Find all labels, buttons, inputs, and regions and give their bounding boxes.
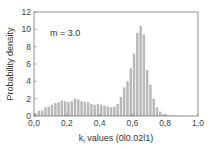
histogram-bar: [130, 68, 132, 116]
histogram-bar: [77, 100, 79, 116]
histogram-bar: [120, 97, 122, 116]
x-tick-label: 0,6: [126, 118, 138, 128]
histogram-bar: [146, 70, 148, 116]
histogram-bar: [126, 81, 128, 116]
histogram-bar: [103, 106, 105, 116]
histogram-bar: [84, 102, 86, 116]
y-tick-label: 2: [26, 94, 31, 104]
histogram-bar: [97, 104, 99, 116]
histogram-bar: [139, 26, 141, 116]
histogram-bar: [116, 104, 118, 116]
histogram-bars: [34, 26, 197, 116]
x-tick-label: 1,0: [192, 118, 204, 128]
x-tick-label: 0,0: [28, 118, 40, 128]
x-tick-label: 0,4: [94, 118, 106, 128]
histogram-bar: [48, 106, 50, 116]
histogram-bar: [41, 111, 43, 116]
x-tick-label: 0,2: [61, 118, 73, 128]
histogram-bar: [136, 33, 138, 116]
y-tick-label: 8: [26, 42, 31, 52]
histogram-bar: [149, 85, 151, 116]
histogram-bar: [159, 112, 161, 116]
y-axis-label: Probability density: [5, 27, 15, 101]
histogram-bar: [143, 35, 145, 116]
histogram-bar: [61, 100, 63, 116]
x-tick-label: 0,8: [159, 118, 171, 128]
x-axis-label: kt values (0l0.02l1): [79, 133, 154, 144]
histogram-bar: [100, 105, 102, 116]
histogram-bar: [123, 87, 125, 116]
y-tick-label: 10: [22, 24, 32, 34]
histogram-bar: [156, 107, 158, 116]
histogram-bar: [70, 101, 72, 116]
histogram-bar: [67, 102, 69, 116]
histogram-bar: [54, 103, 56, 116]
histogram-bar: [113, 106, 115, 116]
y-tick-label: 6: [26, 59, 31, 69]
histogram-bar: [107, 106, 109, 116]
histogram-bar: [38, 111, 40, 116]
histogram-bar: [44, 107, 46, 116]
y-tick-label: 12: [22, 7, 32, 17]
histogram-bar: [152, 99, 154, 116]
histogram-bar: [80, 101, 82, 116]
histogram-bar: [90, 104, 92, 116]
histogram-bar: [64, 101, 66, 116]
histogram-bar: [93, 105, 95, 116]
histogram-bar: [74, 99, 76, 116]
histogram-bar: [51, 105, 53, 116]
y-tick-label: 4: [26, 76, 31, 86]
histogram-chart: 024681012 0,00,20,40,60,81,0 Probability…: [0, 0, 212, 149]
histogram-bar: [133, 54, 135, 116]
histogram-bar: [57, 102, 59, 116]
histogram-bar: [110, 107, 112, 116]
annotation-m-value: m = 3.0: [50, 28, 80, 38]
histogram-bar: [87, 102, 89, 116]
